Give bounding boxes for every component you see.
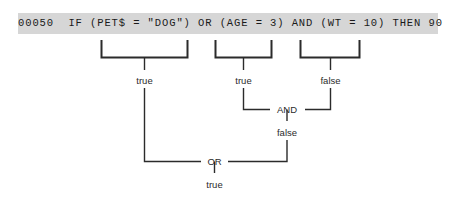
or-operator-label: OR [207, 156, 221, 167]
condition-2-result-label: true [235, 75, 251, 86]
bracket-condition-1 [102, 40, 188, 70]
boolean-evaluation-tree: true true false AND false OR true [0, 0, 456, 202]
evaluation-diagram: 00050 IF (PET$ = "DOG") OR (AGE = 3) AND… [0, 0, 456, 202]
condition-3-result-label: false [320, 75, 340, 86]
and-result-label: false [277, 127, 297, 138]
and-operator-label: AND [277, 104, 297, 115]
condition-1-result-label: true [136, 75, 152, 86]
bracket-condition-3 [301, 40, 360, 70]
bracket-condition-2 [216, 40, 272, 70]
final-result-label: true [206, 179, 222, 190]
